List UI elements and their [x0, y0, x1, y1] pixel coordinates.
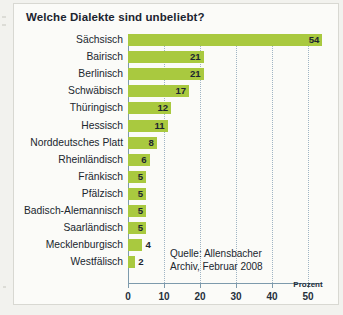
- chart-title: Welche Dialekte sind unbeliebt?: [26, 11, 205, 23]
- bar-value-label: 54: [308, 33, 319, 46]
- x-axis-tick-label: 0: [125, 291, 131, 302]
- bar-value-label: 2: [138, 255, 143, 268]
- x-axis-tick-40: [272, 283, 273, 288]
- bar-row: Pfälzisch5: [128, 188, 322, 200]
- scan-artifact: [2, 24, 6, 26]
- bar-value-label: 8: [143, 136, 154, 149]
- scan-artifact: [3, 286, 6, 288]
- category-label: Fränkisch: [78, 170, 123, 183]
- category-label: Bairisch: [86, 50, 123, 63]
- bar-value-label: 11: [154, 119, 165, 132]
- category-label: Badisch-Alemannisch: [24, 204, 123, 217]
- category-label: Saarländisch: [63, 221, 123, 234]
- category-label: Thüringisch: [70, 101, 123, 114]
- x-axis-unit-label: Prozent: [293, 280, 322, 289]
- category-label: Norddeutsches Platt: [30, 136, 123, 149]
- category-label: Rheinländisch: [58, 153, 123, 166]
- bar-row: Norddeutsches Platt8: [128, 137, 322, 149]
- category-label: Sächsisch: [76, 33, 123, 46]
- bar-row: Fränkisch5: [128, 171, 322, 183]
- bar-value-label: 12: [157, 101, 168, 114]
- source-note: Quelle: Allensbacher Archiv, Februar 200…: [170, 247, 263, 273]
- category-label: Pfälzisch: [82, 187, 123, 200]
- category-label: Mecklenburgisch: [46, 238, 123, 251]
- bar-row: Thüringisch12: [128, 102, 322, 114]
- bar: [128, 34, 322, 46]
- screenshot-root: Welche Dialekte sind unbeliebt? Sächsisc…: [0, 0, 343, 315]
- bar-row: Hessisch11: [128, 120, 322, 132]
- category-label: Berlinisch: [78, 67, 123, 80]
- bar-value-label: 21: [190, 50, 201, 63]
- bar-value-label: 6: [136, 153, 147, 166]
- plot-area: Sächsisch54Bairisch21Berlinisch21Schwäbi…: [128, 34, 322, 283]
- bar-value-label: 5: [132, 204, 143, 217]
- x-axis-tick-label: 10: [158, 291, 169, 302]
- bar-row: Badisch-Alemannisch5: [128, 205, 322, 217]
- x-axis-tick-label: 30: [230, 291, 241, 302]
- bar: [128, 239, 142, 251]
- bar-value-label: 5: [132, 170, 143, 183]
- category-label: Westfälisch: [71, 255, 123, 268]
- bar: [128, 256, 135, 268]
- bar-value-label: 4: [145, 238, 150, 251]
- x-axis-tick-label: 20: [194, 291, 205, 302]
- bar-value-label: 5: [132, 187, 143, 200]
- x-axis-tick-20: [200, 283, 201, 288]
- bar-row: Rheinländisch6: [128, 154, 322, 166]
- x-axis-tick-label: 40: [266, 291, 277, 302]
- bar-value-label: 17: [175, 84, 186, 97]
- bar-row: Saarländisch5: [128, 222, 322, 234]
- category-label: Hessisch: [81, 119, 123, 132]
- scan-artifact: [2, 16, 6, 18]
- bar-row: Schwäbisch17: [128, 85, 322, 97]
- x-axis-tick-0: [128, 283, 129, 288]
- bar-row: Sächsisch54: [128, 34, 322, 46]
- x-axis-tick-30: [236, 283, 237, 288]
- bar-value-label: 5: [132, 221, 143, 234]
- bar-value-label: 21: [190, 67, 201, 80]
- x-axis-tick-10: [164, 283, 165, 288]
- category-label: Schwäbisch: [68, 84, 123, 97]
- x-axis-tick-label: 50: [302, 291, 313, 302]
- bar-row: Berlinisch21: [128, 68, 322, 80]
- bar-row: Bairisch21: [128, 51, 322, 63]
